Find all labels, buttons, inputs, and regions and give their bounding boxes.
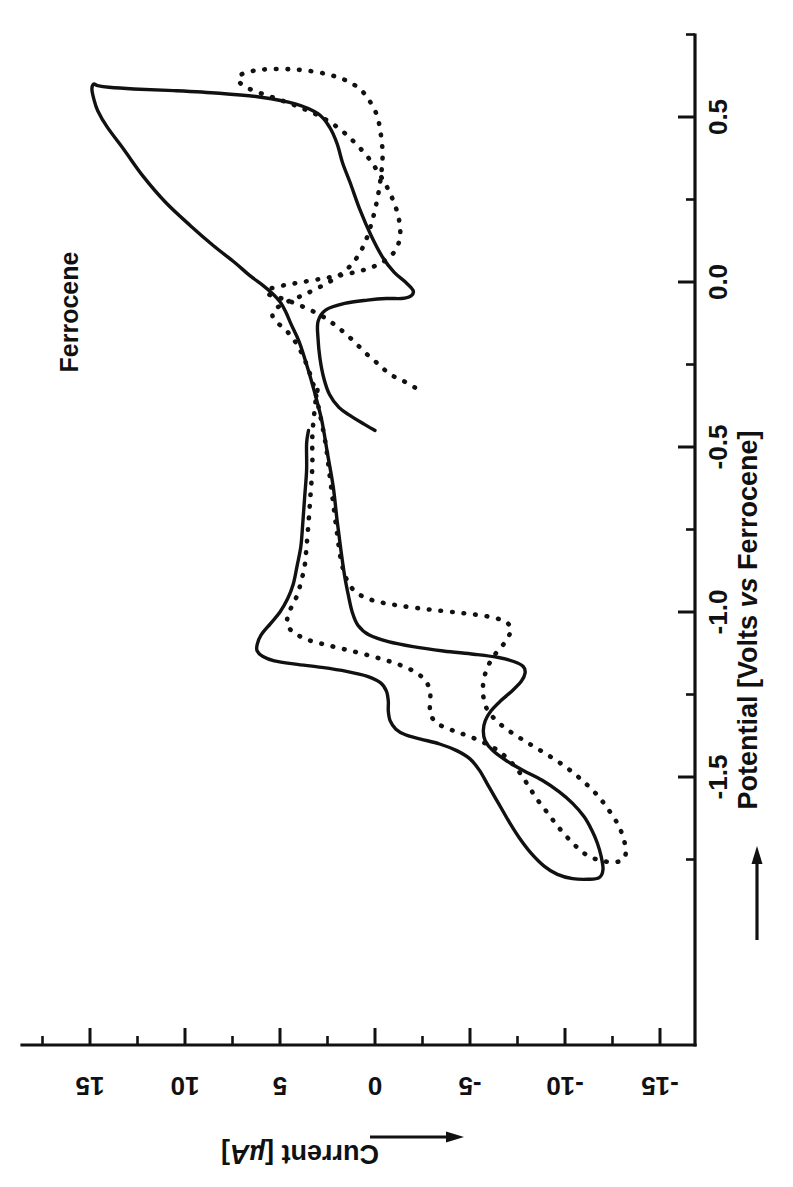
annotations: Ferrocene bbox=[55, 251, 83, 372]
current-tick-label: 15 bbox=[76, 1071, 105, 1101]
current-axis-ticks bbox=[43, 1028, 661, 1045]
trace-solid bbox=[92, 84, 603, 880]
potential-axis-tick-labels: 0.50.0-0.5-1.0-1.5 bbox=[703, 99, 733, 799]
current-arrow-head bbox=[446, 1132, 464, 1143]
potential-arrow-head bbox=[752, 846, 763, 864]
cyclic-voltammogram-figure: 0.50.0-0.5-1.0-1.5 151050-5-10-15 Potent… bbox=[0, 0, 793, 1187]
potential-tick-label: 0.0 bbox=[703, 264, 733, 300]
current-axis-title-text: Current [µA] bbox=[221, 1139, 379, 1169]
potential-tick-label: -1.0 bbox=[703, 590, 733, 635]
potential-tick-label: 0.5 bbox=[703, 99, 733, 135]
current-axis-title: Current [µA] bbox=[221, 1132, 464, 1170]
chart-canvas: 0.50.0-0.5-1.0-1.5 151050-5-10-15 Potent… bbox=[0, 0, 793, 1187]
current-axis-tick-labels: 151050-5-10-15 bbox=[76, 1071, 679, 1101]
current-tick-label: -15 bbox=[641, 1071, 679, 1101]
potential-tick-label: -0.5 bbox=[703, 425, 733, 470]
potential-axis-title: Potential [Volts vs Ferrocene] bbox=[733, 430, 763, 940]
data-traces bbox=[92, 69, 626, 879]
potential-axis-arrow bbox=[752, 846, 763, 940]
current-tick-label: 5 bbox=[273, 1071, 287, 1101]
current-tick-label: -10 bbox=[546, 1071, 584, 1101]
current-tick-label: 10 bbox=[171, 1071, 200, 1101]
current-axis-arrow bbox=[370, 1132, 464, 1143]
current-tick-label: -5 bbox=[458, 1071, 481, 1101]
potential-axis-title-text: Potential [Volts vs Ferrocene] bbox=[733, 430, 763, 809]
potential-axis-ticks bbox=[678, 35, 695, 860]
ferrocene-label: Ferrocene bbox=[55, 251, 83, 372]
potential-tick-label: -1.5 bbox=[703, 755, 733, 800]
current-tick-label: 0 bbox=[368, 1071, 382, 1101]
